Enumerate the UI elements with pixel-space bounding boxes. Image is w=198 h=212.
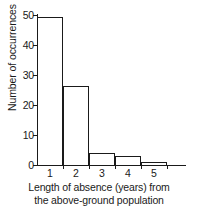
y-tick-label: 30 xyxy=(16,70,34,81)
x-axis-label-line-2: the above-ground population xyxy=(0,194,198,207)
y-axis-tick xyxy=(33,15,37,16)
histogram-bar xyxy=(37,17,63,165)
x-tick-label: 2 xyxy=(66,167,86,179)
x-axis-line xyxy=(37,165,186,166)
histogram-bar xyxy=(63,86,89,165)
x-tick-label: 1 xyxy=(40,167,60,179)
y-tick-label: 20 xyxy=(16,100,34,111)
x-tick-label: 5 xyxy=(144,167,164,179)
histogram-figure: Number of occurrences 0 10 20 30 40 50 1… xyxy=(0,0,198,212)
x-axis-tick-labels: 1 2 3 4 5 xyxy=(37,167,187,181)
x-tick-label: 4 xyxy=(118,167,138,179)
x-tick-label: 3 xyxy=(92,167,112,179)
histogram-bar xyxy=(115,156,141,165)
y-tick-label: 40 xyxy=(16,40,34,51)
y-tick-label: 50 xyxy=(16,10,34,21)
x-axis-label-line-1: Length of absence (years) from xyxy=(0,181,198,194)
y-tick-label: 10 xyxy=(16,130,34,141)
y-axis-tick xyxy=(33,165,37,166)
histogram-bar xyxy=(89,153,115,165)
histogram-bar xyxy=(141,162,167,165)
y-tick-label: 0 xyxy=(16,160,34,171)
plot-area xyxy=(37,14,185,165)
x-axis-label: Length of absence (years) from the above… xyxy=(0,181,198,206)
